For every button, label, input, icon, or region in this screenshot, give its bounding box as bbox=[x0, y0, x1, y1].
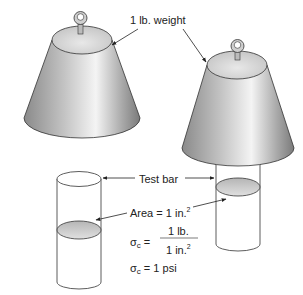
fraction-denominator: 1 in.2 bbox=[166, 243, 191, 256]
left-test-bar bbox=[57, 172, 101, 289]
equals-sign: = bbox=[144, 236, 150, 248]
right-weight bbox=[182, 40, 294, 166]
diagram-canvas bbox=[0, 0, 303, 295]
sigma-symbol: σ bbox=[130, 236, 137, 248]
area-text: Area = 1 in. bbox=[130, 207, 187, 219]
area-label: Area = 1 in.2 bbox=[130, 206, 190, 219]
fraction-numerator: 1 lb. bbox=[168, 226, 189, 237]
denominator-exponent: 2 bbox=[187, 243, 191, 250]
left-weight bbox=[24, 12, 140, 139]
test-bar-label: Test bar bbox=[139, 174, 178, 185]
area-exponent: 2 bbox=[187, 206, 191, 213]
stress-result: σc = 1 psi bbox=[130, 263, 177, 276]
sigma-symbol-2: σ bbox=[130, 262, 137, 274]
sigma-subscript: c bbox=[137, 241, 141, 250]
weight-label: 1 lb. weight bbox=[130, 15, 186, 26]
stress-symbol: σc = bbox=[130, 237, 150, 250]
denominator-text: 1 in. bbox=[166, 244, 187, 256]
sigma-subscript-2: c bbox=[137, 267, 141, 276]
result-text: = 1 psi bbox=[144, 262, 177, 274]
